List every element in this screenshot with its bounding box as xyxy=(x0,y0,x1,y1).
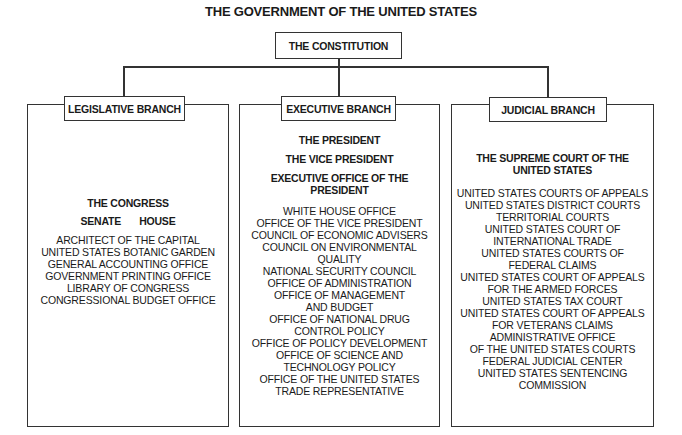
list-item: UNITED STATES COURTS OF xyxy=(451,247,654,259)
list-item: WHITE HOUSE OFFICE xyxy=(239,205,440,217)
president-heading: THE PRESIDENT xyxy=(239,134,440,146)
list-item: UNITED STATES SENTENCING xyxy=(451,367,654,379)
list-item: OFFICE OF SCIENCE AND xyxy=(239,349,440,361)
constitution-box: THE CONSTITUTION xyxy=(275,32,402,59)
executive-branch-label-box: EXECUTIVE BRANCH xyxy=(281,96,396,121)
supreme-court-heading: THE SUPREME COURT OF THE xyxy=(451,152,654,164)
list-item: FEDERAL JUDICIAL CENTER xyxy=(451,355,654,367)
legislative-branch-label-box: LEGISLATIVE BRANCH xyxy=(64,96,185,121)
list-item: CONTROL POLICY xyxy=(239,325,440,337)
senate-label: SENATE xyxy=(81,215,122,227)
executive-branch-label: EXECUTIVE BRANCH xyxy=(286,103,391,115)
list-item: TECHNOLOGY POLICY xyxy=(239,361,440,373)
list-item: OFFICE OF POLICY DEVELOPMENT xyxy=(239,337,440,349)
list-item: OF THE UNITED STATES COURTS xyxy=(451,343,654,355)
constitution-label: THE CONSTITUTION xyxy=(289,40,388,52)
list-item: COUNCIL ON ENVIRONMENTAL xyxy=(239,241,440,253)
list-item: OFFICE OF ADMINISTRATION xyxy=(239,277,440,289)
list-item: ARCHITECT OF THE CAPITAL xyxy=(27,234,229,246)
list-item: LIBRARY OF CONGRESS xyxy=(27,282,229,294)
judicial-content: THE SUPREME COURT OF THE UNITED STATES U… xyxy=(451,152,654,391)
list-item: COMMISSION xyxy=(451,379,654,391)
list-item: FEDERAL CLAIMS xyxy=(451,259,654,271)
executive-items: WHITE HOUSE OFFICE OFFICE OF THE VICE PR… xyxy=(239,205,440,397)
list-item: COUNCIL OF ECONOMIC ADVISERS xyxy=(239,229,440,241)
connector-root-down xyxy=(338,58,340,97)
list-item: CONGRESSIONAL BUDGET OFFICE xyxy=(27,294,229,306)
legislative-content: THE CONGRESS SENATE HOUSE ARCHITECT OF T… xyxy=(27,197,229,306)
legislative-items: ARCHITECT OF THE CAPITAL UNITED STATES B… xyxy=(27,234,229,306)
list-item: INTERNATIONAL TRADE xyxy=(451,235,654,247)
judicial-items: UNITED STATES COURTS OF APPEALS UNITED S… xyxy=(451,187,654,391)
list-item: UNITED STATES COURT OF xyxy=(451,223,654,235)
judicial-branch-label-box: JUDICIAL BRANCH xyxy=(489,97,607,122)
list-item: OFFICE OF MANAGEMENT xyxy=(239,289,440,301)
list-item: NATIONAL SECURITY COUNCIL xyxy=(239,265,440,277)
chambers-row: SENATE HOUSE xyxy=(27,215,229,227)
list-item: GOVERNMENT PRINTING OFFICE xyxy=(27,270,229,282)
vice-president-heading: THE VICE PRESIDENT xyxy=(239,153,440,165)
list-item: FOR VETERANS CLAIMS xyxy=(451,319,654,331)
judicial-branch-label: JUDICIAL BRANCH xyxy=(501,104,595,116)
list-item: OFFICE OF THE VICE PRESIDENT xyxy=(239,217,440,229)
executive-office-heading: EXECUTIVE OFFICE OF THE xyxy=(239,172,440,184)
connector-legislative xyxy=(123,66,125,97)
list-item: UNITED STATES DISTRICT COURTS xyxy=(451,199,654,211)
diagram-title: THE GOVERNMENT OF THE UNITED STATES xyxy=(0,4,682,20)
list-item: QUALITY xyxy=(239,253,440,265)
list-item: OFFICE OF THE UNITED STATES xyxy=(239,373,440,385)
list-item: FOR THE ARMED FORCES xyxy=(451,283,654,295)
executive-content: THE PRESIDENT THE VICE PRESIDENT EXECUTI… xyxy=(239,134,440,397)
house-label: HOUSE xyxy=(139,215,175,227)
connector-judicial xyxy=(547,66,549,97)
list-item: GENERAL ACCOUNTING OFFICE xyxy=(27,258,229,270)
list-item: TERRITORIAL COURTS xyxy=(451,211,654,223)
supreme-court-heading-cont: UNITED STATES xyxy=(451,164,654,176)
list-item: UNITED STATES TAX COURT xyxy=(451,295,654,307)
list-item: TRADE REPRESENTATIVE xyxy=(239,385,440,397)
executive-office-heading-cont: PRESIDENT xyxy=(239,184,440,196)
list-item: AND BUDGET xyxy=(239,301,440,313)
list-item: UNITED STATES COURT OF APPEALS xyxy=(451,307,654,319)
connector-horizontal xyxy=(123,66,548,68)
legislative-branch-label: LEGISLATIVE BRANCH xyxy=(68,103,181,115)
list-item: OFFICE OF NATIONAL DRUG xyxy=(239,313,440,325)
list-item: UNITED STATES COURT OF APPEALS xyxy=(451,271,654,283)
congress-heading: THE CONGRESS xyxy=(27,197,229,209)
list-item: UNITED STATES COURTS OF APPEALS xyxy=(451,187,654,199)
list-item: UNITED STATES BOTANIC GARDEN xyxy=(27,246,229,258)
list-item: ADMINISTRATIVE OFFICE xyxy=(451,331,654,343)
